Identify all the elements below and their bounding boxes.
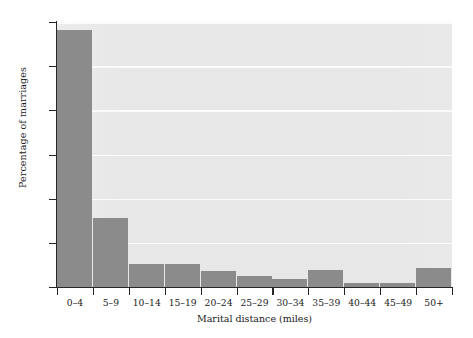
bar [272, 279, 307, 287]
x-axis-tick-label: 0–4 [67, 297, 83, 308]
y-axis-tick [49, 287, 56, 288]
x-axis-tick-label: 45–49 [384, 297, 412, 308]
y-axis-tick [49, 199, 56, 200]
y-axis-tick [49, 155, 56, 156]
x-axis-tick [201, 288, 202, 295]
x-axis-tick-label: 50+ [424, 297, 443, 308]
y-axis-tick [49, 66, 56, 67]
gridline [57, 22, 452, 24]
x-axis-tick [165, 288, 166, 295]
x-axis-tick-label: 20–24 [205, 297, 233, 308]
bar [201, 271, 236, 287]
y-axis-tick [49, 22, 56, 23]
gridline [57, 155, 452, 157]
x-axis-tick [308, 288, 309, 295]
bar [416, 268, 451, 287]
bar [308, 270, 343, 287]
histogram-figure: Percentage of marriages Marital distance… [0, 0, 473, 338]
x-axis-tick [416, 288, 417, 295]
x-axis-tick-label: 10–14 [133, 297, 161, 308]
x-axis-tick [380, 288, 381, 295]
bar [165, 264, 200, 287]
bar [344, 283, 379, 287]
x-axis-title: Marital distance (miles) [57, 313, 452, 324]
y-axis-title: Percentage of marriages [17, 33, 28, 223]
x-axis-tick [272, 288, 273, 295]
x-axis-tick [57, 288, 58, 295]
bar [93, 218, 128, 287]
bar [57, 30, 92, 287]
gridline [57, 110, 452, 112]
x-axis-tick-label: 40–44 [348, 297, 376, 308]
bar [237, 276, 272, 287]
y-axis-tick [49, 243, 56, 244]
x-axis-tick [237, 288, 238, 295]
bar [129, 264, 164, 287]
x-axis-tick-label: 25–29 [241, 297, 269, 308]
x-axis-tick [452, 288, 453, 295]
x-axis-tick-label: 35–39 [312, 297, 340, 308]
gridline [57, 66, 452, 68]
y-axis-tick [49, 110, 56, 111]
x-axis-tick [344, 288, 345, 295]
x-axis-line [56, 287, 453, 288]
bar [380, 283, 415, 287]
x-axis-tick [93, 288, 94, 295]
x-axis-tick-label: 15–19 [169, 297, 197, 308]
x-axis-tick-label: 5–9 [103, 297, 119, 308]
gridline [57, 199, 452, 201]
x-axis-tick-label: 30–34 [276, 297, 304, 308]
x-axis-tick [129, 288, 130, 295]
